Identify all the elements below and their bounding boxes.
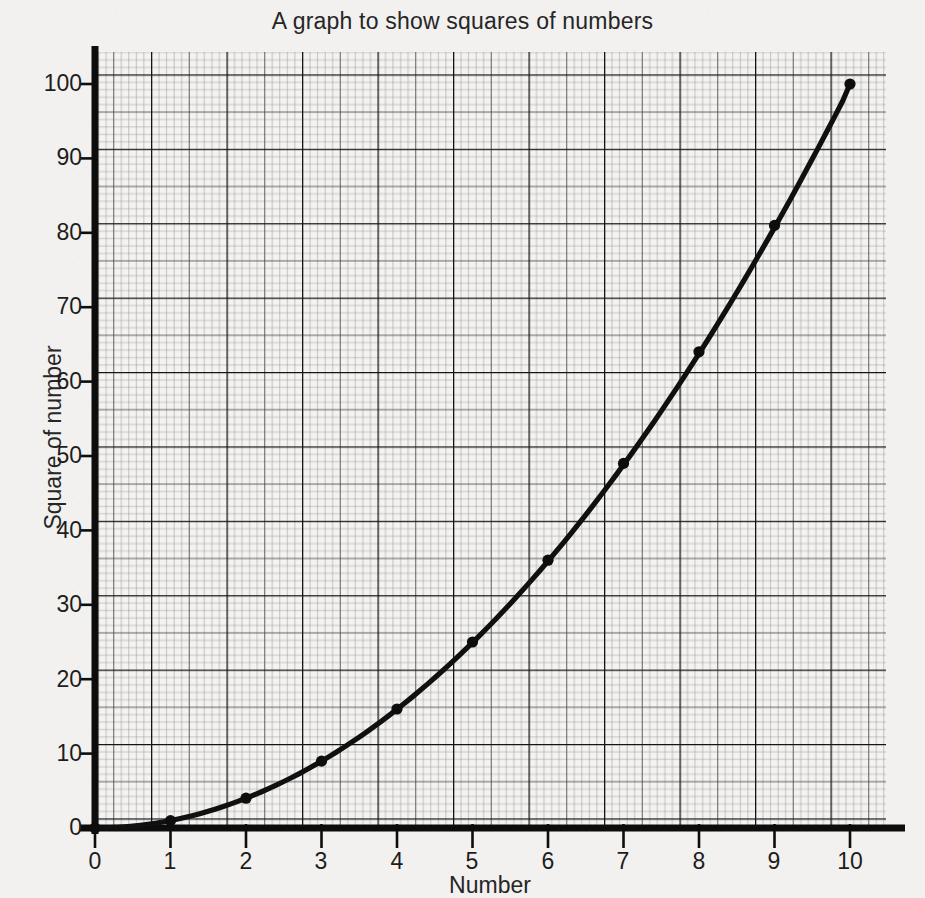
- x-tick-label: 1: [140, 848, 200, 875]
- x-tick-label: 8: [669, 848, 729, 875]
- graph-figure: A graph to show squares of numbers Squar…: [0, 0, 925, 898]
- x-tick-label: 7: [593, 848, 653, 875]
- x-tick-labels: 0 1 2 3 4 5 6 7 8 9 10: [0, 0, 925, 898]
- x-tick-label: 3: [291, 848, 351, 875]
- x-tick-label: 0: [65, 848, 125, 875]
- x-tick-label: 2: [216, 848, 276, 875]
- x-tick-label: 9: [744, 848, 804, 875]
- x-tick-label: 6: [518, 848, 578, 875]
- x-tick-label: 10: [820, 848, 880, 875]
- x-tick-label: 5: [442, 848, 502, 875]
- x-tick-label: 4: [367, 848, 427, 875]
